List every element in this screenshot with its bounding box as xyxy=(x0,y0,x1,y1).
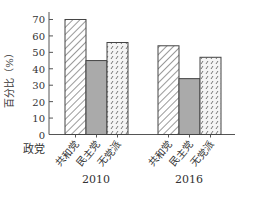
bar-2010-2 xyxy=(107,42,128,134)
bars xyxy=(65,19,221,134)
y-tick-label: 0 xyxy=(39,130,45,141)
group-label-2010: 2010 xyxy=(82,173,110,186)
y-axis: 010203040506070 xyxy=(32,12,53,141)
x-tick-label: 无党派 xyxy=(188,138,216,169)
y-axis-label: 百分比（%） xyxy=(4,48,15,108)
bar-2016-0 xyxy=(158,46,179,135)
x-tick-label: 无党派 xyxy=(95,138,123,169)
y-tick-label: 30 xyxy=(32,80,45,91)
y-tick-label: 60 xyxy=(32,31,45,42)
y-tick-label: 70 xyxy=(32,14,45,25)
bar-chart: 010203040506070 百分比（%） 共和党民主党无党派共和党民主党无党… xyxy=(0,0,254,198)
bar-2016-2 xyxy=(200,57,221,134)
group-label-2016: 2016 xyxy=(175,173,203,186)
bar-2010-1 xyxy=(86,61,107,135)
y-tick-label: 40 xyxy=(32,64,45,75)
bar-2010-0 xyxy=(65,19,86,134)
bar-2016-1 xyxy=(179,79,200,135)
y-tick-label: 20 xyxy=(32,97,45,108)
y-tick-label: 50 xyxy=(32,47,45,58)
x-ticks: 共和党民主党无党派共和党民主党无党派 xyxy=(53,135,216,169)
x-axis-label: 政党 xyxy=(23,142,45,156)
y-tick-label: 10 xyxy=(32,113,45,124)
